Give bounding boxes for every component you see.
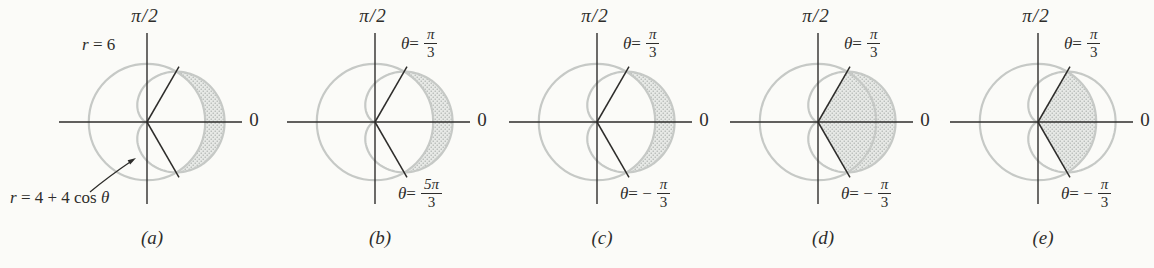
ray-lower bbox=[147, 122, 179, 177]
ray-lower bbox=[375, 122, 407, 177]
fraction-denominator: 3 bbox=[657, 194, 671, 211]
fraction-numerator: π bbox=[1098, 176, 1112, 194]
theta-var: θ bbox=[401, 34, 409, 54]
theta-var: θ bbox=[1061, 184, 1069, 204]
zero-axis-label: 0 bbox=[1137, 109, 1153, 131]
cardioid-equation-var: r bbox=[10, 188, 17, 207]
fraction-denominator: 3 bbox=[424, 44, 438, 61]
fraction-numerator: 5π bbox=[421, 176, 442, 194]
fraction-denominator: 3 bbox=[1098, 194, 1112, 211]
theta-var: θ bbox=[620, 184, 628, 204]
circle-equation-var: r bbox=[82, 35, 89, 54]
fraction-numerator: π bbox=[867, 26, 881, 44]
lower-ray-angle-label: θ = −π3 bbox=[620, 176, 670, 212]
theta-var: θ bbox=[623, 34, 631, 54]
equals-sign: = bbox=[631, 34, 641, 54]
upper-ray-angle-label: θ = π3 bbox=[844, 26, 880, 62]
panel-letter-d: (d) bbox=[703, 227, 943, 249]
fraction-denominator: 3 bbox=[867, 44, 881, 61]
pi-over-2-axis-label: π/2 bbox=[345, 5, 401, 27]
ray-upper bbox=[375, 67, 407, 122]
circle-equation-label: r = 6 bbox=[82, 35, 115, 55]
fraction-denominator: 3 bbox=[878, 194, 892, 211]
theta-var: θ bbox=[1064, 34, 1072, 54]
equals-minus-sign: = − bbox=[628, 184, 651, 204]
equals-sign: = bbox=[409, 34, 419, 54]
panel-letter-b: (b) bbox=[260, 227, 500, 249]
fraction-numerator: π bbox=[424, 26, 438, 44]
pi-over-2-axis-label: π/2 bbox=[117, 5, 173, 27]
circle-equation-rest: = 6 bbox=[89, 35, 116, 54]
cardioid-equation-label: r = 4 + 4 cos θ bbox=[10, 188, 109, 208]
fraction: π3 bbox=[424, 26, 438, 62]
panel-e: π/2 0 θ = π3 θ = −π3 (e) bbox=[923, 0, 1153, 268]
fraction: π3 bbox=[1087, 26, 1101, 62]
ray-lower bbox=[597, 122, 629, 177]
panel-d: π/2 0 θ = π3 θ = −π3 (d) bbox=[703, 0, 933, 268]
panel-letter-c: (c) bbox=[482, 227, 722, 249]
panel-b: π/2 0 θ = π3 θ = 5π3 (b) bbox=[260, 0, 490, 268]
fraction: π3 bbox=[657, 176, 671, 212]
upper-ray-angle-label: θ = π3 bbox=[1064, 26, 1100, 62]
theta-var: θ bbox=[841, 184, 849, 204]
pi-over-2-axis-label: π/2 bbox=[788, 5, 844, 27]
equals-sign: = bbox=[406, 184, 416, 204]
lower-ray-angle-label: θ = −π3 bbox=[1061, 176, 1111, 212]
fraction: π3 bbox=[1098, 176, 1112, 212]
equals-sign: = bbox=[852, 34, 862, 54]
upper-ray-angle-label: θ = π3 bbox=[401, 26, 437, 62]
panel-letter-a: (a) bbox=[32, 227, 272, 249]
equals-sign: = bbox=[1072, 34, 1082, 54]
panel-c: π/2 0 θ = π3 θ = −π3 (c) bbox=[482, 0, 712, 268]
fraction-numerator: π bbox=[878, 176, 892, 194]
fraction-denominator: 3 bbox=[1087, 44, 1101, 61]
fraction-denominator: 3 bbox=[425, 194, 439, 211]
fraction: π3 bbox=[867, 26, 881, 62]
theta-var: θ bbox=[844, 34, 852, 54]
cardioid-equation-mid: = 4 + 4 cos bbox=[17, 188, 101, 207]
fraction-numerator: π bbox=[646, 26, 660, 44]
lower-ray-angle-label: θ = −π3 bbox=[841, 176, 891, 212]
fraction: 5π3 bbox=[421, 176, 442, 212]
pi-over-2-axis-label: π/2 bbox=[567, 5, 623, 27]
fraction-numerator: π bbox=[1087, 26, 1101, 44]
panel-a: π/2 0 r = 6 r = 4 + 4 cos θ (a) bbox=[32, 0, 262, 268]
fraction: π3 bbox=[646, 26, 660, 62]
cardioid-equation-theta: θ bbox=[101, 188, 109, 207]
lower-ray-angle-label: θ = 5π3 bbox=[398, 176, 442, 212]
upper-ray-angle-label: θ = π3 bbox=[623, 26, 659, 62]
fraction-denominator: 3 bbox=[646, 44, 660, 61]
fraction-numerator: π bbox=[657, 176, 671, 194]
pi-over-2-axis-label: π/2 bbox=[1008, 5, 1064, 27]
ray-upper bbox=[597, 67, 629, 122]
panel-letter-e: (e) bbox=[923, 227, 1154, 249]
equals-minus-sign: = − bbox=[849, 184, 872, 204]
fraction: π3 bbox=[878, 176, 892, 212]
ray-upper bbox=[147, 67, 179, 122]
theta-var: θ bbox=[398, 184, 406, 204]
equals-minus-sign: = − bbox=[1069, 184, 1092, 204]
